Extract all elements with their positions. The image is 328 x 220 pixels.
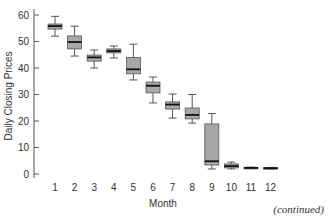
box-month-7 xyxy=(166,94,180,118)
y-tick-label: 60 xyxy=(18,10,30,21)
x-tick-label: 11 xyxy=(246,182,257,193)
box-series xyxy=(48,16,278,169)
y-axis: 0102030405060 xyxy=(18,9,39,180)
x-tick-label: 10 xyxy=(226,182,238,193)
x-tick-label: 3 xyxy=(91,182,97,193)
box-month-6 xyxy=(146,77,160,103)
box-month-9 xyxy=(205,114,219,169)
box-month-8 xyxy=(185,95,199,124)
x-tick-label: 4 xyxy=(111,182,117,193)
x-tick-label: 1 xyxy=(52,182,58,193)
box-month-12 xyxy=(264,167,278,169)
x-axis: 123456789101112 xyxy=(52,182,276,193)
continued-note: (continued) xyxy=(273,203,324,215)
box-month-1 xyxy=(48,16,62,36)
box-month-2 xyxy=(68,26,82,56)
x-tick-label: 9 xyxy=(209,182,215,193)
y-tick-label: 10 xyxy=(18,142,30,153)
box-month-3 xyxy=(87,50,101,68)
x-tick-label: 6 xyxy=(150,182,156,193)
box-month-10 xyxy=(224,162,238,169)
y-tick-label: 0 xyxy=(23,169,29,180)
iqr-box xyxy=(126,57,140,73)
box-month-4 xyxy=(107,46,121,58)
iqr-box xyxy=(146,82,160,93)
box-month-11 xyxy=(244,167,258,169)
x-tick-label: 5 xyxy=(131,182,137,193)
y-tick-label: 20 xyxy=(18,116,30,127)
y-tick-label: 50 xyxy=(18,36,30,47)
x-tick-label: 2 xyxy=(72,182,78,193)
x-tick-label: 8 xyxy=(189,182,195,193)
iqr-box xyxy=(166,102,180,109)
y-tick-label: 40 xyxy=(18,63,30,74)
y-axis-title: Daily Closing Prices xyxy=(3,52,14,141)
x-tick-label: 7 xyxy=(170,182,176,193)
box-month-5 xyxy=(126,44,140,80)
box-plot-chart: 0102030405060 123456789101112 Daily Clos… xyxy=(0,0,328,220)
y-tick-label: 30 xyxy=(18,89,30,100)
x-axis-title: Month xyxy=(149,198,177,209)
iqr-box xyxy=(185,108,199,119)
iqr-box xyxy=(205,124,219,165)
x-tick-label: 12 xyxy=(265,182,277,193)
